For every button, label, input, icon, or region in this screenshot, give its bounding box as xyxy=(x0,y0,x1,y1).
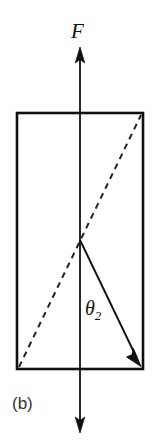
angle-label-subscript: 2 xyxy=(95,308,102,323)
angle-label-symbol: θ xyxy=(85,297,95,319)
figure-panel-b: F θ2 (b) xyxy=(0,0,159,445)
force-label: F xyxy=(70,19,84,43)
panel-label: (b) xyxy=(12,394,33,413)
force-diagram-svg: F θ2 (b) xyxy=(0,0,159,445)
